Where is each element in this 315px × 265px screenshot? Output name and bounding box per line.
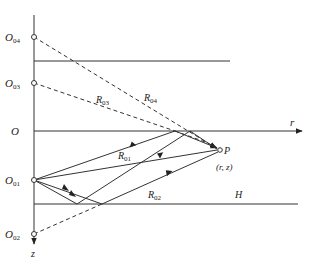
- ray-bottom1-c: [190, 131, 217, 149]
- label-O02: O02: [5, 228, 20, 242]
- ray-bottom1-b: [77, 131, 190, 204]
- label-O03: O03: [5, 77, 20, 91]
- label-origin: O: [11, 125, 19, 137]
- source-O01-marker: [32, 178, 37, 183]
- ray-R02-image: [34, 204, 102, 234]
- label-R02: R02: [147, 189, 162, 202]
- ray-surface-a: [34, 131, 175, 180]
- ray-surface-b: [175, 131, 217, 148]
- label-O01: O01: [5, 174, 20, 188]
- ray-diagram: O04 O03 O O01 O02 z r H P (r, z) R04 R03…: [0, 0, 315, 265]
- ray-R03-a: [34, 83, 175, 131]
- label-R03: R03: [95, 94, 110, 107]
- label-O04: O04: [5, 31, 20, 45]
- source-O02-marker: [32, 232, 37, 237]
- label-H: H: [234, 189, 243, 200]
- label-r-axis: r: [290, 116, 295, 128]
- label-R04: R04: [143, 92, 158, 105]
- source-O03-marker: [32, 81, 37, 86]
- ray-R02-a: [34, 180, 102, 204]
- label-R01: R01: [117, 150, 132, 163]
- label-P-coords: (r, z): [216, 162, 233, 172]
- receiver-P-marker: [218, 148, 223, 153]
- label-z-axis: z: [30, 248, 35, 259]
- label-P: P: [223, 145, 230, 156]
- source-O04-marker: [32, 35, 37, 40]
